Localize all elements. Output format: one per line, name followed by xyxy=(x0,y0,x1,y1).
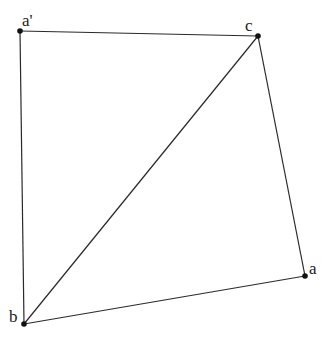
edge-b-a xyxy=(24,276,305,324)
label-b: b xyxy=(9,307,18,326)
edge-aprime-b xyxy=(20,31,24,324)
point-c xyxy=(255,33,261,39)
edge-c-b xyxy=(24,36,258,324)
edge-aprime-c xyxy=(20,31,258,36)
label-a: a xyxy=(309,259,317,278)
edge-c-a xyxy=(258,36,305,276)
point-a xyxy=(302,273,308,279)
point-b xyxy=(21,321,27,327)
label-c: c xyxy=(245,16,253,35)
geometry-diagram: a' c a b xyxy=(0,0,331,337)
label-a-prime: a' xyxy=(22,11,33,30)
